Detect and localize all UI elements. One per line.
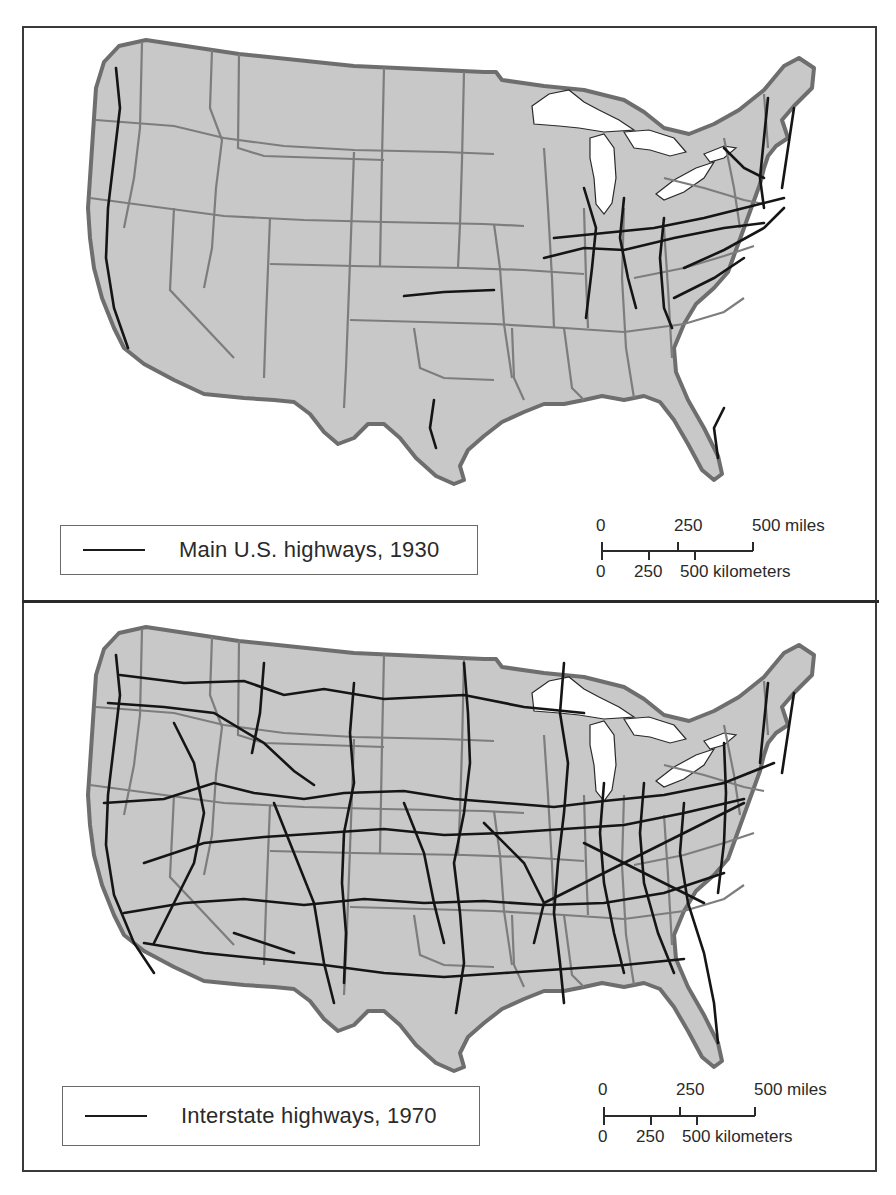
scale-miles-0: 0 — [598, 1080, 607, 1100]
legend-label: Main U.S. highways, 1930 — [179, 537, 439, 563]
scale-tick — [677, 542, 679, 551]
scale-km-0: 0 — [596, 562, 605, 582]
scale-tick — [650, 1116, 652, 1125]
scale-tick — [696, 1116, 698, 1125]
line-icon — [83, 549, 145, 551]
scale-miles-250: 250 — [676, 1080, 704, 1100]
scale-bar-1930: 0 250 500 miles 0 250 500 kilometers — [584, 516, 844, 596]
scale-tick — [601, 542, 603, 560]
legend-label: Interstate highways, 1970 — [181, 1103, 437, 1129]
scale-miles-500: 500 miles — [752, 516, 825, 536]
us-map-1930 — [24, 28, 877, 600]
scale-tick — [694, 551, 696, 560]
scale-km-250: 250 — [636, 1127, 664, 1147]
scale-km-250: 250 — [634, 562, 662, 582]
line-icon — [85, 1115, 147, 1117]
scale-km-500: 500 kilometers — [680, 562, 791, 582]
scale-miles-250: 250 — [674, 516, 702, 536]
scale-bar-1970: 0 250 500 miles 0 250 500 kilometers — [584, 1080, 844, 1160]
scale-tick — [752, 542, 754, 551]
scale-miles-0: 0 — [596, 516, 605, 536]
legend-1970: Interstate highways, 1970 — [62, 1086, 480, 1146]
scale-tick — [648, 551, 650, 560]
map-panel-1930: Main U.S. highways, 1930 0 250 500 miles… — [24, 28, 877, 600]
legend-1930: Main U.S. highways, 1930 — [60, 525, 478, 575]
scale-km-0: 0 — [598, 1127, 607, 1147]
scale-tick — [603, 1107, 605, 1125]
scale-tick — [679, 1107, 681, 1116]
scale-km-500: 500 kilometers — [682, 1127, 793, 1147]
map-panel-1970: Interstate highways, 1970 0 250 500 mile… — [24, 603, 877, 1170]
scale-miles-500: 500 miles — [754, 1080, 827, 1100]
scale-tick — [754, 1107, 756, 1116]
